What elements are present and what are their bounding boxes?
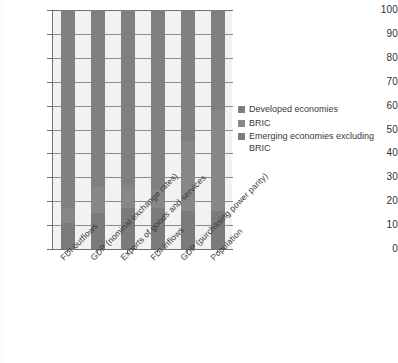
- bar-segment: [211, 10, 225, 110]
- bar-1: [61, 10, 75, 249]
- gridline: [53, 130, 233, 131]
- y-axis-tick-label: 20: [354, 196, 398, 206]
- legend-swatch-icon: [238, 133, 245, 140]
- gridline: [53, 106, 233, 107]
- gridline: [53, 58, 233, 59]
- x-axis-line: [52, 249, 233, 250]
- bar-segment: [61, 10, 75, 208]
- legend-item: BRIC: [238, 118, 396, 130]
- gridline: [53, 10, 233, 11]
- legend-label: BRIC: [249, 118, 396, 130]
- bar-segment: [91, 10, 105, 187]
- bar-segment: [151, 10, 165, 189]
- y-axis-line: [52, 10, 53, 250]
- bar-5: [181, 10, 195, 249]
- gridline: [53, 153, 233, 154]
- legend-swatch-icon: [238, 120, 245, 127]
- gridline: [53, 34, 233, 35]
- y-axis-tick-label: 70: [354, 77, 398, 87]
- y-axis-tick-label: 80: [354, 53, 398, 63]
- bar-segment: [61, 208, 75, 222]
- legend: Developed economiesBRICEmerging economie…: [238, 104, 396, 156]
- bar-segment: [211, 110, 225, 210]
- y-axis-tick-label: 90: [354, 29, 398, 39]
- bar-segment: [121, 10, 135, 187]
- gridline: [53, 82, 233, 83]
- y-axis-tick-label: 100: [354, 5, 398, 15]
- y-axis-tick-label: 10: [354, 220, 398, 230]
- legend-label: Developed economies: [249, 104, 396, 116]
- legend-swatch-icon: [238, 106, 245, 113]
- bar-segment: [91, 187, 105, 213]
- bar-2: [91, 10, 105, 249]
- y-axis-tick-label: 0: [354, 244, 398, 254]
- legend-label: Emerging economies excluding BRIC: [249, 131, 396, 154]
- stacked-bar-chart: 0102030405060708090100 FDI outflowsGDP (…: [0, 0, 398, 363]
- bar-segment: [181, 10, 195, 141]
- y-axis-tick-label: 30: [354, 172, 398, 182]
- legend-item: Emerging economies excluding BRIC: [238, 131, 396, 154]
- legend-item: Developed economies: [238, 104, 396, 116]
- bar-segment: [121, 187, 135, 209]
